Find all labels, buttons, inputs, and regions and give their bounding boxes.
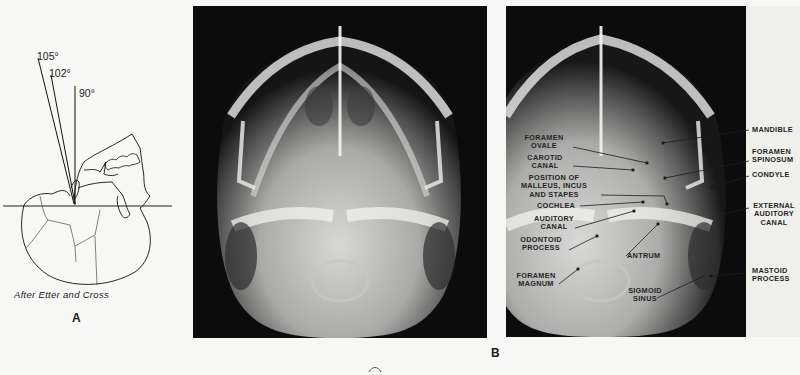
arc-mark-icon [368, 365, 382, 373]
label-carotid-canal: CAROTIDCANAL [519, 154, 571, 171]
label-foramen-ovale: FORAMENOVALE [514, 134, 574, 151]
panel-b-letter: B [491, 346, 500, 360]
drawing-credit: After Etter and Cross [14, 289, 109, 300]
angle-label-90: 90° [79, 87, 95, 99]
label-external-auditory-canal: EXTERNALAUDITORYCANAL [749, 202, 799, 227]
angle-label-105: 105° [37, 50, 59, 62]
label-auditory-canal: AUDITORYCANAL [528, 215, 580, 232]
label-mandible: MANDIBLE [752, 126, 793, 134]
label-odontoid-process: ODONTOIDPROCESS [512, 236, 570, 253]
skull-angle-drawing [0, 0, 190, 375]
label-sigmoid-sinus: SIGMOIDSINUS [624, 287, 666, 304]
panel-a-diagram: 105° 102° 90° After Etter and Cross A [0, 0, 190, 375]
angle-line-105 [38, 58, 74, 204]
suture-lines [26, 196, 100, 285]
radiograph-unlabeled [193, 6, 487, 338]
label-ossicles: POSITION OFMALLEUS, INCUSAND STAPES [507, 174, 601, 199]
label-foramen-spinosum: FORAMENSPINOSUM [752, 148, 793, 165]
cranium-outline [22, 191, 151, 285]
facial-outline [74, 134, 150, 218]
label-condyle: CONDYLE [752, 171, 790, 179]
label-cochlea: COCHLEA [537, 202, 575, 210]
label-mastoid-process: MASTOIDPROCESS [752, 267, 790, 284]
label-antrum: ANTRUM [627, 252, 660, 260]
angle-line-102 [51, 75, 75, 204]
angle-label-102: 102° [49, 67, 71, 79]
label-foramen-magnum: FORAMENMAGNUM [512, 272, 560, 289]
panel-a-letter: A [72, 311, 81, 325]
teeth [104, 154, 140, 170]
